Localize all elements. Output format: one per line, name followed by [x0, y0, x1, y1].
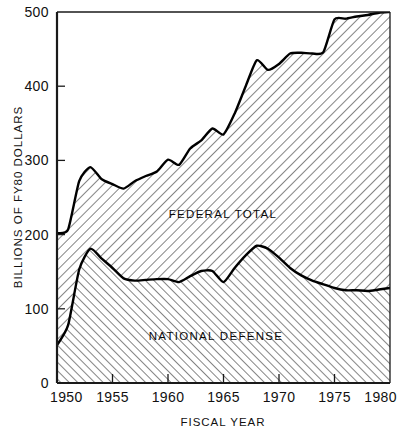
y-tick-label: 400: [24, 78, 49, 94]
x-axis-title: FISCAL YEAR: [180, 416, 265, 428]
x-tick-label: 1970: [263, 389, 296, 405]
series-label-federal-total: FEDERAL TOTAL: [169, 208, 278, 220]
x-tick-label: 1965: [207, 389, 240, 405]
y-tick-label: 500: [24, 4, 49, 20]
x-tick-label: 1975: [318, 389, 351, 405]
x-tick-label: 1950: [50, 389, 83, 405]
y-axis-title: BILLIONS OF FY80 DOLLARS: [12, 106, 24, 289]
series-label-national-defense: NATIONAL DEFENSE: [149, 330, 284, 342]
x-tick-label: 1980: [364, 389, 397, 405]
x-tick-label: 1960: [152, 389, 185, 405]
x-axis-tick-labels: 1950195519601965197019751980: [50, 389, 397, 405]
fiscal-year-spending-area-chart: 0100200300400500 19501955196019651970197…: [0, 0, 411, 433]
y-tick-label: 300: [24, 152, 49, 168]
chart-container: 0100200300400500 19501955196019651970197…: [0, 0, 411, 433]
x-tick-label: 1955: [96, 389, 129, 405]
y-tick-label: 200: [24, 227, 49, 243]
y-tick-label: 100: [24, 301, 49, 317]
y-tick-label: 0: [41, 375, 49, 391]
